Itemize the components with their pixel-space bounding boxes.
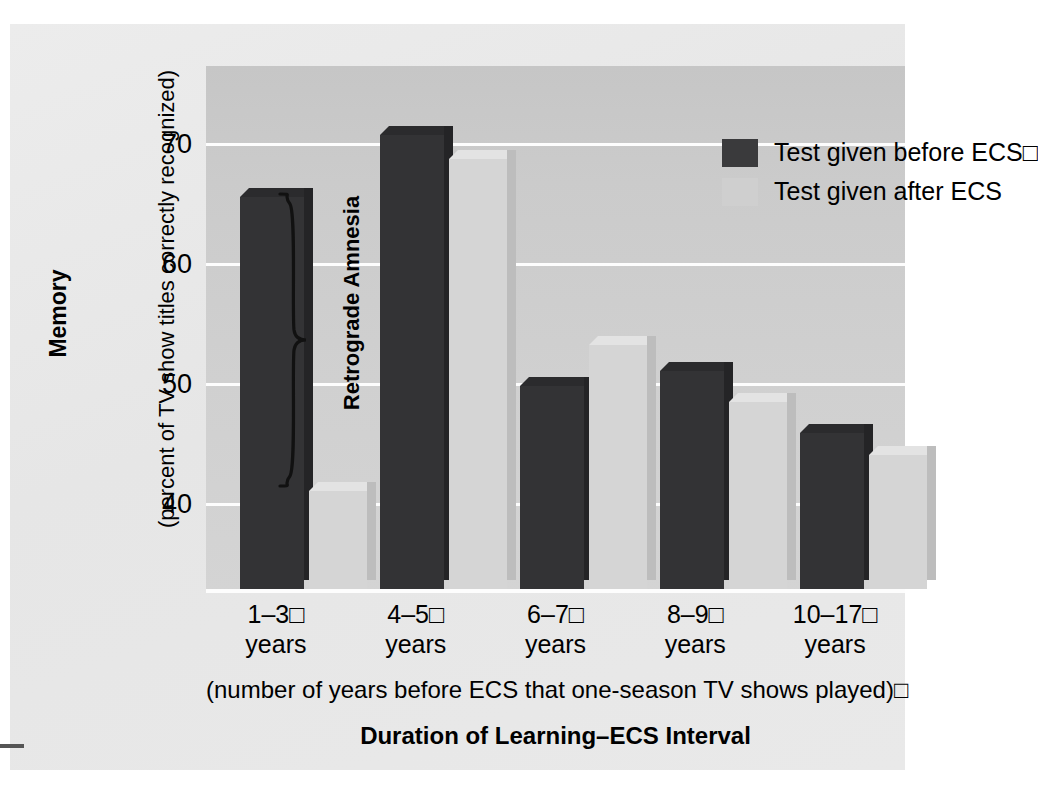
- bar-top-face: [729, 393, 796, 402]
- x-category-line2: years: [765, 630, 905, 660]
- bar-top-face: [800, 424, 873, 433]
- bar-top-face: [660, 362, 733, 371]
- x-category-line1: 4–5□: [346, 600, 486, 630]
- bar-before-ecs-4-5-years[interactable]: [380, 135, 444, 589]
- legend-label-after-ecs: Test given after ECS: [774, 177, 1002, 206]
- x-category-10-17-years: 10–17□ years: [765, 600, 905, 670]
- x-category-line2: years: [625, 630, 765, 660]
- legend-item-before-ecs[interactable]: Test given before ECS□: [722, 138, 1038, 167]
- bar-top-face: [589, 336, 656, 345]
- bar-after-ecs-10-17-years[interactable]: [869, 455, 927, 589]
- x-category-line1: 6–7□: [486, 600, 626, 630]
- bar-top-face: [449, 150, 516, 159]
- bar-before-ecs-6-7-years[interactable]: [520, 386, 584, 589]
- bar-top-face: [380, 126, 453, 135]
- x-category-1-3-years: 1–3□ years: [206, 600, 346, 670]
- bar-after-ecs-6-7-years[interactable]: [589, 345, 647, 589]
- retrograde-amnesia-label: Retrograde Amnesia: [339, 173, 365, 433]
- bar-side-face: [787, 393, 796, 580]
- bar-side-face: [367, 482, 376, 580]
- y-axis-tick-labels: 70 60 50 40: [140, 0, 192, 794]
- plot-area: Test given before ECS□ Test given after …: [206, 66, 905, 592]
- bar-front-face: [729, 402, 787, 589]
- x-category-line2: years: [206, 630, 346, 660]
- x-category-line1: 1–3□: [206, 600, 346, 630]
- y-axis-title: Memory: [45, 234, 72, 394]
- retrograde-amnesia-annotation: Retrograde Amnesia: [276, 190, 310, 494]
- x-category-line1: 8–9□: [625, 600, 765, 630]
- x-category-4-5-years: 4–5□ years: [346, 600, 486, 670]
- bar-before-ecs-10-17-years[interactable]: [800, 433, 864, 589]
- y-tick-40: 40: [140, 491, 192, 518]
- y-tick-70: 70: [140, 131, 192, 158]
- bar-after-ecs-1-3-years[interactable]: [309, 491, 367, 589]
- bar-after-ecs-4-5-years[interactable]: [449, 159, 507, 589]
- x-category-line2: years: [486, 630, 626, 660]
- legend-item-after-ecs[interactable]: Test given after ECS: [722, 177, 1038, 206]
- x-axis-subtitle: (number of years before ECS that one-sea…: [206, 676, 905, 704]
- bar-front-face: [869, 455, 927, 589]
- bar-front-face: [449, 159, 507, 589]
- y-tick-60: 60: [140, 251, 192, 278]
- x-category-line2: years: [346, 630, 486, 660]
- x-axis-baseline: [206, 589, 905, 593]
- legend-swatch-icon-after-ecs: [722, 178, 758, 206]
- bar-top-face: [309, 482, 376, 491]
- bar-front-face: [520, 386, 584, 589]
- bar-front-face: [380, 135, 444, 589]
- x-category-line1: 10–17□: [765, 600, 905, 630]
- bar-side-face: [507, 150, 516, 580]
- bar-top-face: [869, 446, 936, 455]
- legend: Test given before ECS□ Test given after …: [722, 138, 1038, 216]
- x-category-8-9-years: 8–9□ years: [625, 600, 765, 670]
- bar-front-face: [309, 491, 367, 589]
- legend-label-before-ecs: Test given before ECS□: [774, 138, 1038, 167]
- bar-side-face: [927, 446, 936, 580]
- curly-brace-icon: [276, 190, 310, 490]
- bar-side-face: [647, 336, 656, 580]
- bar-after-ecs-8-9-years[interactable]: [729, 402, 787, 589]
- bar-front-face: [589, 345, 647, 589]
- y-tick-50: 50: [140, 371, 192, 398]
- bar-top-face: [520, 377, 593, 386]
- bar-front-face: [800, 433, 864, 589]
- x-category-6-7-years: 6–7□ years: [486, 600, 626, 670]
- left-edge-rule: [0, 744, 24, 748]
- bar-before-ecs-8-9-years[interactable]: [660, 371, 724, 589]
- legend-swatch-icon-before-ecs: [722, 139, 758, 167]
- x-axis-category-labels: 1–3□ years 4–5□ years 6–7□ years 8–9□ ye…: [206, 600, 905, 670]
- x-axis-title: Duration of Learning–ECS Interval: [206, 722, 905, 750]
- bar-front-face: [660, 371, 724, 589]
